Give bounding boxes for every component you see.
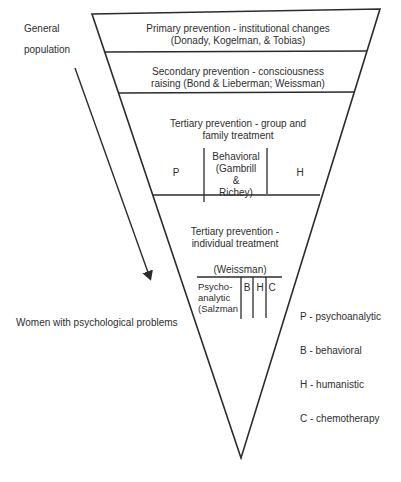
secondary-prevention-authors: raising (Bond & Lieberman; Weissman)	[151, 78, 325, 90]
divider-secondary-tertiary-group	[118, 92, 354, 93]
progression-arrow	[75, 68, 150, 278]
primary-prevention-title: Primary prevention - institutional chang…	[146, 23, 329, 35]
divider-primary-secondary	[105, 51, 367, 52]
group-col-richey: Richey)	[219, 187, 253, 199]
tertiary-individual-subtitle: individual treatment	[192, 238, 279, 250]
legend-humanistic: H - humanistic	[300, 379, 364, 391]
group-col-p: P	[173, 167, 180, 179]
label-women-psych-problems: Women with psychological problems	[16, 317, 178, 329]
legend-behavioral: B - behavioral	[300, 345, 362, 357]
primary-prevention-authors: (Donady, Kogelman, & Tobias)	[171, 35, 306, 47]
label-general: General	[24, 23, 60, 35]
legend-psychoanalytic: P - psychoanalytic	[300, 311, 381, 323]
individual-col-c: C	[268, 282, 275, 294]
group-col-h: H	[296, 167, 303, 179]
tertiary-group-title: Tertiary prevention - group and	[170, 118, 306, 130]
individual-col-salzman: (Salzman	[198, 303, 238, 315]
secondary-prevention-title: Secondary prevention - consciousness	[152, 66, 324, 78]
individual-col-b: B	[244, 282, 251, 294]
group-col-behavioral: Behavioral	[212, 151, 259, 163]
legend-chemotherapy: C - chemotherapy	[300, 413, 379, 425]
group-col-ampersand: &	[233, 175, 240, 187]
individual-col-h: H	[256, 282, 263, 294]
individual-reference: (Weissman)	[213, 264, 266, 276]
tertiary-individual-title: Tertiary prevention -	[191, 226, 279, 238]
tertiary-group-subtitle: family treatment	[202, 130, 273, 142]
label-population: population	[24, 44, 70, 56]
group-col-gambrill: (Gambrill	[216, 163, 257, 175]
